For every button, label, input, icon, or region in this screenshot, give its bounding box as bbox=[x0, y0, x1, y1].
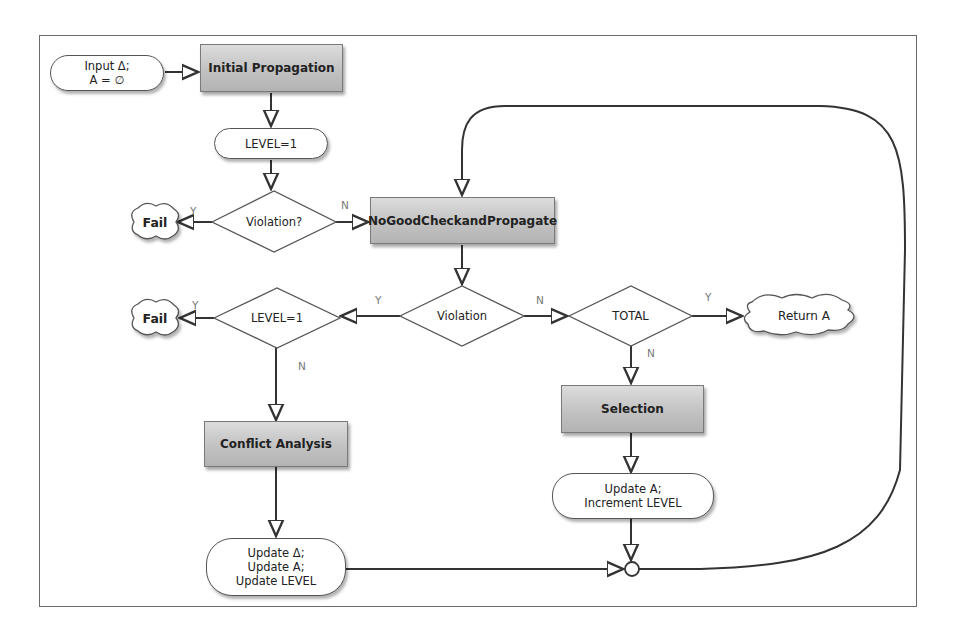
level-check-label: LEVEL=1 bbox=[214, 303, 340, 333]
violation-1-label: Violation? bbox=[212, 207, 336, 237]
node-update-forward: Update A; Increment LEVEL bbox=[552, 473, 714, 519]
nogood-label: NoGoodCheckandPropagate bbox=[368, 214, 557, 228]
fail-2-label: Fail bbox=[132, 303, 178, 333]
start-node-input: Input Δ; A = ∅ bbox=[50, 55, 164, 91]
violation-2-label: Violation bbox=[400, 301, 524, 331]
update-backtrack-line-2: Update A; bbox=[236, 560, 317, 574]
total-label: TOTAL bbox=[569, 301, 692, 331]
return-label: Return A bbox=[748, 302, 860, 330]
edge-label-total-yes: Y bbox=[705, 291, 711, 303]
input-line-2: A = ∅ bbox=[84, 73, 129, 87]
process-initial-propagation: Initial Propagation bbox=[200, 44, 343, 92]
edge-label-violation2-no: N bbox=[536, 294, 544, 306]
edge-label-level-yes: Y bbox=[192, 299, 198, 311]
edge-label-violation1-no: N bbox=[341, 199, 349, 211]
process-conflict-analysis: Conflict Analysis bbox=[204, 421, 348, 467]
level-init-label: LEVEL=1 bbox=[245, 137, 297, 151]
process-selection: Selection bbox=[561, 385, 704, 433]
process-nogood-check: NoGoodCheckandPropagate bbox=[370, 197, 555, 244]
edge-label-violation1-yes: Y bbox=[190, 205, 196, 217]
initial-propagation-label: Initial Propagation bbox=[208, 61, 334, 75]
selection-label: Selection bbox=[601, 402, 664, 416]
update-backtrack-line-3: Update LEVEL bbox=[236, 574, 317, 588]
edge-label-level-no: N bbox=[298, 360, 306, 372]
fail-1-label: Fail bbox=[132, 207, 178, 237]
update-backtrack-line-1: Update Δ; bbox=[236, 546, 317, 560]
junction-node bbox=[625, 562, 639, 576]
input-line-1: Input Δ; bbox=[84, 59, 129, 73]
node-level-init: LEVEL=1 bbox=[214, 128, 328, 159]
node-update-backtrack: Update Δ; Update A; Update LEVEL bbox=[206, 538, 346, 596]
update-forward-line-2: Increment LEVEL bbox=[584, 496, 682, 510]
edge-label-total-no: N bbox=[647, 347, 655, 359]
conflict-analysis-label: Conflict Analysis bbox=[220, 437, 332, 451]
update-forward-line-1: Update A; bbox=[584, 482, 682, 496]
edge-label-violation2-yes: Y bbox=[375, 294, 381, 306]
